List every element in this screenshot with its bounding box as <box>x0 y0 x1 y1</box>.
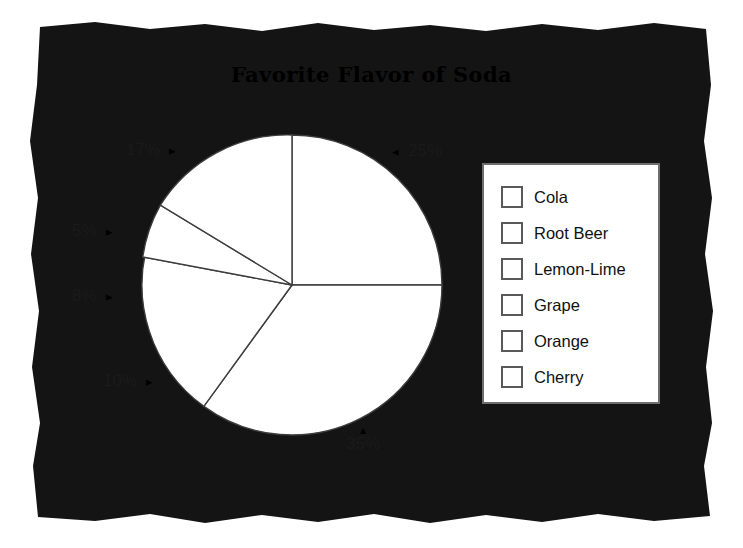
legend-item-orange[interactable]: Orange <box>501 323 658 359</box>
triangle-right-marker: ▸ <box>169 144 176 157</box>
pie-label-8-percent: 8% ▸ <box>72 286 113 306</box>
legend-swatch-icon <box>501 366 523 388</box>
pie-label-25-percent: ◂ 25% <box>392 141 442 161</box>
legend-swatch-icon <box>501 222 523 244</box>
legend-item-root-beer[interactable]: Root Beer <box>501 215 658 251</box>
triangle-right-marker: ▸ <box>106 290 113 303</box>
legend-box: Cola Root Beer Lemon-Lime Grape Orange C… <box>482 163 660 404</box>
chart-page: Favorite Flavor of Soda 17% ▸ ◂ 25% 5% ▸… <box>0 0 743 548</box>
legend-swatch-icon <box>501 258 523 280</box>
legend-swatch-icon <box>501 186 523 208</box>
triangle-left-marker: ◂ <box>392 145 399 158</box>
pie-chart <box>130 120 460 455</box>
legend-swatch-icon <box>501 330 523 352</box>
triangle-right-marker: ▸ <box>146 375 153 388</box>
legend-item-label: Cola <box>534 189 568 206</box>
triangle-right-marker: ▸ <box>106 225 113 238</box>
legend-item-lemon-lime[interactable]: Lemon-Lime <box>501 251 658 287</box>
legend-swatch-icon <box>501 294 523 316</box>
pie-label-value: 35% <box>346 434 380 454</box>
legend-item-cola[interactable]: Cola <box>501 179 658 215</box>
legend-item-label: Lemon-Lime <box>534 261 626 278</box>
page-title: Favorite Flavor of Soda <box>0 62 743 87</box>
pie-label-10-percent: 10% ▸ <box>103 371 153 391</box>
legend-item-label: Root Beer <box>534 225 608 242</box>
pie-label-value: 8% <box>72 286 97 306</box>
legend-item-grape[interactable]: Grape <box>501 287 658 323</box>
legend-item-cherry[interactable]: Cherry <box>501 359 658 395</box>
legend-item-label: Cherry <box>534 369 584 386</box>
legend-item-label: Grape <box>534 297 580 314</box>
pie-label-value: 17% <box>126 140 160 160</box>
pie-label-35-percent: ▴ 35% <box>346 424 380 454</box>
pie-label-value: 10% <box>103 371 137 391</box>
legend-item-label: Orange <box>534 333 589 350</box>
pie-label-value: 25% <box>408 141 442 161</box>
pie-label-5-percent: 5% ▸ <box>72 221 113 241</box>
pie-label-value: 5% <box>72 221 97 241</box>
pie-label-17-percent: 17% ▸ <box>126 140 176 160</box>
